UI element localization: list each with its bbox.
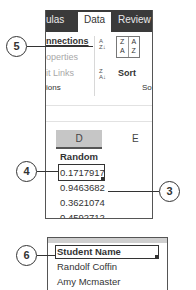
spreadsheet-panel: D E Random 0.1717917 0.9463682 0.3621074… xyxy=(45,97,153,219)
callout-6-leader xyxy=(37,255,55,256)
callout-3-leader xyxy=(108,191,159,192)
ribbon-tab-bar: ulas Data Review xyxy=(46,10,152,32)
ribbon-body: nnections operties it Links ions AZ↓ ZA … xyxy=(46,32,152,98)
callout-4-leader xyxy=(37,171,58,172)
sort-dialog-icon[interactable]: ZA AZ xyxy=(116,36,140,58)
group-divider xyxy=(94,36,95,96)
student-name-panel: Student Name Randolf Coffin Amy Mcmaster xyxy=(47,237,168,290)
properties-button[interactable]: operties xyxy=(46,52,78,62)
connections-button[interactable]: nnections xyxy=(46,36,89,46)
cell-d5[interactable]: 0.4592712 xyxy=(60,212,105,219)
row-line xyxy=(46,121,152,122)
cell-header-random[interactable]: Random xyxy=(60,151,98,162)
callout-3: 3 xyxy=(159,181,180,202)
tab-data[interactable]: Data xyxy=(78,12,111,32)
sort-a-to-z-icon[interactable]: AZ↓ xyxy=(99,38,106,50)
cell-d3[interactable]: 0.9463682 xyxy=(60,182,105,193)
sort-button[interactable]: Sort xyxy=(118,68,136,78)
cell-student-1[interactable]: Randolf Coffin xyxy=(57,261,117,272)
tab-formulas[interactable]: ulas xyxy=(46,14,64,25)
active-cell-selection xyxy=(55,245,159,259)
fill-handle[interactable] xyxy=(155,255,159,259)
callout-6: 6 xyxy=(16,245,37,266)
column-header-d[interactable]: D xyxy=(56,130,102,149)
edit-links-button[interactable]: it Links xyxy=(46,68,74,78)
row-line xyxy=(46,105,152,106)
sort-a-z-cell: AZ xyxy=(128,37,140,57)
column-header-bar xyxy=(48,238,167,243)
cell-student-2[interactable]: Amy Mcmaster xyxy=(57,276,120,287)
cell-d4[interactable]: 0.3621074 xyxy=(60,197,105,208)
sort-filter-group-label: So xyxy=(142,83,152,92)
ribbon-panel: ulas Data Review nnections operties it L… xyxy=(45,10,153,99)
column-header-e[interactable]: E xyxy=(132,130,139,147)
sort-z-to-a-icon[interactable]: ZA↓ xyxy=(99,68,106,80)
sort-z-a-cell: ZA xyxy=(117,37,128,57)
tab-review[interactable]: Review xyxy=(118,14,151,25)
callout-5: 5 xyxy=(6,36,27,57)
fill-handle[interactable] xyxy=(101,177,105,181)
active-cell-selection xyxy=(58,164,105,181)
callout-5-leader xyxy=(27,46,93,47)
callout-4: 4 xyxy=(16,161,37,182)
connections-group-label: ions xyxy=(46,83,61,92)
